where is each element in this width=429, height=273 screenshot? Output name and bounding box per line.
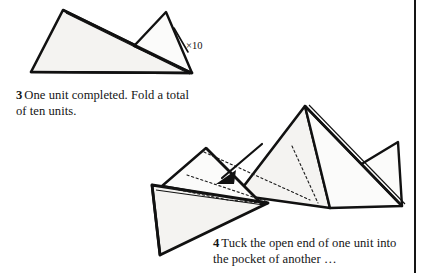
step-3-diagram (22, 2, 202, 82)
step-3-multiplier-label: ×10 (186, 40, 202, 51)
step-4-caption-text: Tuck the open end of one unit into the p… (213, 236, 396, 266)
column-divider-rule (414, 0, 416, 273)
unit-base-edge (31, 72, 192, 73)
step-4-caption: 4Tuck the open end of one unit into the … (213, 236, 413, 267)
origami-instruction-page: ×10 3One unit completed. Fold a total of… (0, 0, 429, 273)
